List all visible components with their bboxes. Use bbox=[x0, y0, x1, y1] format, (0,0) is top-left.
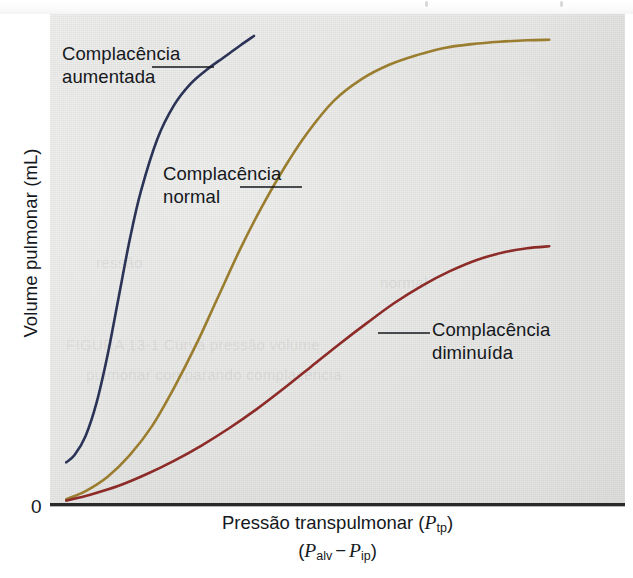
x-axis-symbol-pip: Pip bbox=[349, 540, 371, 561]
scan-speck bbox=[425, 1, 428, 7]
x-axis-symbol-palv: Palv bbox=[304, 540, 332, 561]
x-axis-title-line-1: Pressão transpulmonar (Ptp) bbox=[50, 510, 625, 538]
x-axis-title-line-2: (Palv−Pip) bbox=[50, 538, 625, 566]
x-axis-title: Pressão transpulmonar (Ptp) (Palv−Pip) bbox=[50, 510, 625, 566]
annotation-complacencia-aumentada: Complacência aumentada bbox=[62, 42, 180, 88]
annotation-line-1: Complacência bbox=[163, 162, 281, 185]
annotation-complacencia-normal: Complacência normal bbox=[163, 162, 281, 208]
x-axis-subscript-ip: ip bbox=[361, 549, 371, 563]
scan-speck bbox=[560, 1, 563, 7]
minus-sign: − bbox=[332, 540, 349, 561]
annotation-line-1: Complacência bbox=[62, 42, 180, 65]
x-axis-title-prefix: Pressão transpulmonar ( bbox=[222, 512, 425, 533]
x-axis-title-suffix: ) bbox=[447, 512, 453, 533]
x-axis-line bbox=[50, 503, 625, 506]
compliance-figure: FIGURA 13-1 Curva pressão volume pulmona… bbox=[0, 0, 633, 578]
y-axis-title: Volume pulmonar (mL) bbox=[20, 103, 42, 383]
y-axis-origin-label: 0 bbox=[31, 496, 42, 518]
annotation-line-2: normal bbox=[163, 185, 281, 208]
annotation-line-2: aumentada bbox=[62, 65, 180, 88]
x-axis-subscript-alv: alv bbox=[316, 549, 332, 563]
x-axis-hairline bbox=[50, 506, 625, 507]
annotation-complacencia-diminuida: Complacência diminuída bbox=[432, 318, 550, 364]
annotation-line-1: Complacência bbox=[432, 318, 550, 341]
annotation-line-2: diminuída bbox=[432, 341, 550, 364]
x-axis-symbol-ptp: Ptp bbox=[425, 512, 447, 533]
paren-close: ) bbox=[371, 540, 377, 561]
scan-top-bleed bbox=[0, 0, 633, 14]
x-axis-subscript-tp: tp bbox=[436, 521, 446, 535]
